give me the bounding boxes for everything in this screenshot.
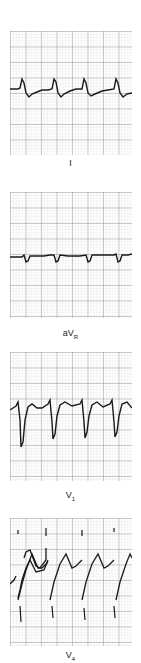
- lead-label-subscript: 1: [72, 496, 75, 502]
- ecg-strip-lead-avr: [10, 192, 132, 318]
- lead-label-avr: aVR: [0, 328, 141, 340]
- ecg-strip-lead-v1: [10, 352, 132, 481]
- lead-label-subscript: 4: [72, 656, 75, 662]
- lead-label-i: I: [0, 158, 141, 168]
- ecg-strip-lead-v4: [10, 518, 132, 646]
- lead-label-v1: V1: [0, 490, 141, 502]
- lead-label-v4: V4: [0, 650, 141, 662]
- lead-label-text: aV: [63, 328, 74, 338]
- lead-label-subscript: R: [74, 334, 78, 340]
- ecg-strip-lead-i: [10, 31, 132, 155]
- lead-label-text: I: [69, 158, 72, 168]
